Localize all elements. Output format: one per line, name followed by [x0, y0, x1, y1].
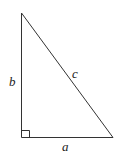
label-c: c [72, 66, 78, 81]
label-a: a [62, 139, 69, 154]
right-triangle-diagram: b c a [0, 0, 116, 154]
triangle [22, 13, 114, 138]
label-b: b [9, 74, 16, 89]
right-angle-marker [22, 131, 30, 138]
side-c [22, 13, 114, 138]
